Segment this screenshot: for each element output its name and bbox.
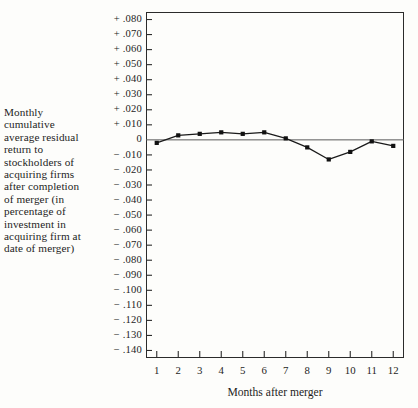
data-point-marker: [327, 157, 331, 161]
data-point-marker: [305, 145, 309, 149]
x-tick-label: 9: [326, 364, 331, 376]
y-tick-label: + .050: [90, 59, 142, 70]
x-axis-ticks: [157, 351, 394, 358]
x-tick-label: 1: [154, 364, 159, 376]
x-tick-label: 12: [388, 364, 399, 376]
y-tick-label: − .060: [90, 225, 142, 236]
y-tick-label: − .130: [90, 330, 142, 341]
data-point-marker: [348, 150, 352, 154]
x-axis-tick-labels: 123456789101112: [146, 364, 404, 382]
y-tick-label: − .090: [90, 270, 142, 281]
y-tick-label: 0: [90, 134, 142, 145]
x-tick-label: 5: [240, 364, 245, 376]
y-axis-tick-labels: + .080+ .070+ .060+ .050+ .040+ .030+ .0…: [90, 0, 142, 408]
x-tick-label: 7: [283, 364, 288, 376]
data-point-marker: [262, 130, 266, 134]
y-axis-ticks: [146, 20, 152, 351]
data-point-marker: [284, 136, 288, 140]
y-tick-label: − .100: [90, 285, 142, 296]
data-point-marker: [241, 132, 245, 136]
y-tick-label: + .010: [90, 119, 142, 130]
y-tick-label: − .050: [90, 210, 142, 221]
x-tick-label: 4: [219, 364, 224, 376]
y-tick-label: + .060: [90, 44, 142, 55]
data-point-marker: [391, 144, 395, 148]
y-tick-label: − .030: [90, 180, 142, 191]
x-tick-label: 2: [176, 364, 181, 376]
y-tick-label: − .120: [90, 315, 142, 326]
y-tick-label: − .070: [90, 240, 142, 251]
y-tick-label: + .080: [90, 14, 142, 25]
y-tick-label: − .110: [90, 300, 142, 311]
data-point-marker: [155, 141, 159, 145]
x-tick-label: 10: [345, 364, 356, 376]
chart-figure: Monthly cumulative average residual retu…: [0, 0, 418, 408]
x-tick-label: 6: [262, 364, 267, 376]
y-tick-label: − .020: [90, 165, 142, 176]
y-tick-label: − .010: [90, 150, 142, 161]
y-tick-label: − .040: [90, 195, 142, 206]
y-tick-label: + .030: [90, 89, 142, 100]
x-tick-label: 11: [367, 364, 377, 376]
y-tick-label: − .140: [90, 345, 142, 356]
x-tick-label: 8: [305, 364, 310, 376]
series-line: [157, 132, 394, 159]
chart-plot: [146, 12, 404, 358]
y-tick-label: + .020: [90, 104, 142, 115]
data-point-marker: [219, 130, 223, 134]
y-axis-caption: Monthly cumulative average residual retu…: [4, 106, 90, 255]
y-tick-label: + .040: [90, 74, 142, 85]
data-point-marker: [198, 132, 202, 136]
data-point-marker: [370, 139, 374, 143]
y-tick-label: − .080: [90, 255, 142, 266]
data-point-marker: [176, 133, 180, 137]
y-tick-label: + .070: [90, 29, 142, 40]
x-tick-label: 3: [197, 364, 202, 376]
x-axis-caption: Months after merger: [146, 386, 404, 399]
